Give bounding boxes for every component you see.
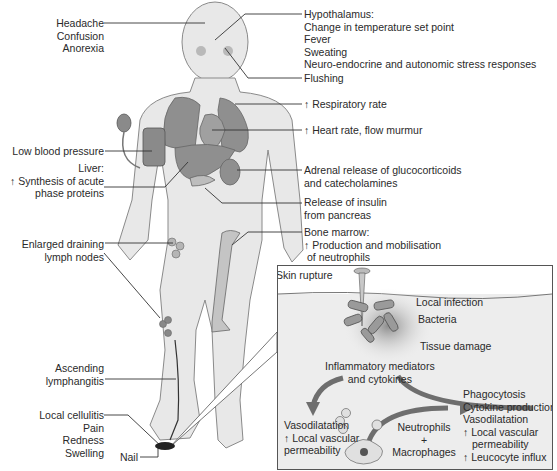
label-phagocytosis-effects: Phagocytosis Cytokine production Vasodil…	[463, 388, 553, 463]
label-skin-rupture: Skin rupture	[277, 269, 333, 282]
label-bone-marrow: Bone marrow: ↑ Production and mobilisati…	[304, 226, 441, 264]
label-inflammatory-mediators: Inflammatory mediators and cytokines	[325, 360, 435, 385]
label-flushing: Flushing	[304, 72, 344, 85]
label-headache: Headache Confusion Anorexia	[56, 17, 104, 55]
label-lymphangitis: Ascending lymphangitis	[46, 362, 104, 387]
inset-local-infection-panel: Skin rupture Local infection Bacteria Ti…	[277, 265, 553, 470]
label-bacteria: Bacteria	[418, 313, 457, 326]
label-respiratory-rate: ↑ Respiratory rate	[304, 98, 387, 111]
kidney	[220, 159, 240, 185]
label-liver: Liver: ↑ Synthesis of acute phase protei…	[10, 162, 104, 200]
label-hypothalamus: Hypothalamus: Change in temperature set …	[304, 8, 536, 71]
label-lymph-nodes: Enlarged draining lymph nodes	[22, 238, 104, 263]
label-insulin: Release of insulin from pancreas	[304, 196, 387, 221]
label-heart-rate: ↑ Heart rate, flow murmur	[304, 124, 422, 137]
label-low-blood-pressure: Low blood pressure	[12, 145, 104, 158]
label-tissue-damage: Tissue damage	[420, 340, 491, 353]
label-adrenal: Adrenal release of glucocorticoids and c…	[304, 164, 462, 189]
label-vasodilatation-effects: Vasodilatation ↑ Local vascular permeabi…	[284, 419, 359, 457]
label-neutrophils-macrophages: Neutrophils + Macrophages	[378, 421, 470, 459]
label-local-cellulitis: Local cellulitis Pain Redness Swelling	[39, 409, 104, 459]
label-local-infection: Local infection	[416, 296, 483, 309]
label-nail: Nail	[120, 451, 138, 464]
body-silhouette	[118, 2, 303, 448]
